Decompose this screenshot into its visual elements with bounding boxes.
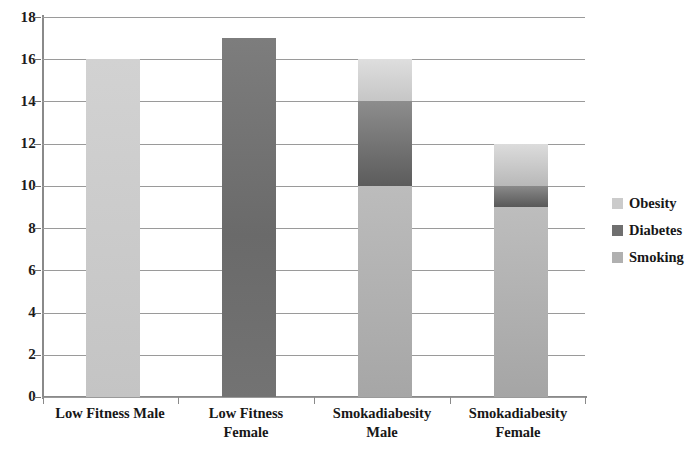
legend-label: Obesity bbox=[629, 196, 677, 211]
y-tick-label: 10 bbox=[6, 178, 36, 193]
x-tick-label-line: Smokadiabesity bbox=[450, 404, 586, 423]
bar-low-fitness-female[interactable] bbox=[222, 38, 276, 397]
x-axis-separator bbox=[314, 397, 315, 404]
y-tick-label: 18 bbox=[6, 10, 36, 25]
y-tick-mark bbox=[34, 144, 41, 145]
x-tick-label-line: Female bbox=[178, 423, 314, 442]
y-tick-mark bbox=[34, 270, 41, 271]
y-tick-mark bbox=[34, 17, 41, 18]
y-tick-label: 16 bbox=[6, 52, 36, 67]
legend-label: Diabetes bbox=[629, 223, 682, 238]
plot-area bbox=[42, 17, 585, 397]
bar-segment-diabetes[interactable] bbox=[358, 101, 412, 186]
y-tick-label: 6 bbox=[6, 263, 36, 278]
y-tick-label: 14 bbox=[6, 94, 36, 109]
y-tick-mark bbox=[34, 313, 41, 314]
bar-segment-obesity[interactable] bbox=[358, 59, 412, 101]
legend-swatch-icon bbox=[612, 252, 623, 263]
x-tick-label-smokadiabesity-male: Smokadiabesity Male bbox=[314, 404, 450, 442]
x-tick-label-line: Low Fitness Male bbox=[42, 404, 178, 423]
x-tick-label-line: Smokadiabesity bbox=[314, 404, 450, 423]
bar-segment-obesity[interactable] bbox=[86, 59, 140, 397]
bar-segment-diabetes[interactable] bbox=[494, 186, 548, 207]
chart-container: 18 16 14 12 10 8 6 4 2 0 bbox=[0, 0, 691, 459]
bar-smokadiabesity-female[interactable] bbox=[494, 144, 548, 397]
bar-segment-obesity[interactable] bbox=[494, 144, 548, 186]
bar-segment-smoking[interactable] bbox=[494, 207, 548, 397]
legend-item-diabetes[interactable]: Diabetes bbox=[612, 217, 691, 244]
y-tick-label: 4 bbox=[6, 305, 36, 320]
x-tick-label-line: Male bbox=[314, 423, 450, 442]
x-tick-label-smokadiabesity-female: Smokadiabesity Female bbox=[450, 404, 586, 442]
y-tick-label: 8 bbox=[6, 221, 36, 236]
x-tick-label-low-fitness-female: Low Fitness Female bbox=[178, 404, 314, 442]
y-tick-label: 0 bbox=[6, 389, 36, 404]
y-tick-label: 12 bbox=[6, 136, 36, 151]
legend-swatch-icon bbox=[612, 225, 623, 236]
y-tick-mark bbox=[34, 397, 41, 398]
bar-segment-diabetes[interactable] bbox=[222, 38, 276, 397]
x-tick-label-low-fitness-male: Low Fitness Male bbox=[42, 404, 178, 423]
y-axis-tick-labels: 18 16 14 12 10 8 6 4 2 0 bbox=[0, 17, 36, 397]
legend: Obesity Diabetes Smoking bbox=[612, 190, 691, 271]
y-tick-mark bbox=[34, 228, 41, 229]
y-tick-mark bbox=[34, 101, 41, 102]
x-axis-separator bbox=[585, 397, 586, 404]
x-axis-separator bbox=[178, 397, 179, 404]
bar-smokadiabesity-male[interactable] bbox=[358, 59, 412, 397]
bar-segment-smoking[interactable] bbox=[358, 186, 412, 397]
legend-label: Smoking bbox=[629, 250, 684, 265]
x-axis-separator bbox=[450, 397, 451, 404]
y-tick-label: 2 bbox=[6, 347, 36, 362]
legend-item-obesity[interactable]: Obesity bbox=[612, 190, 691, 217]
legend-swatch-icon bbox=[612, 198, 623, 209]
x-tick-label-line: Low Fitness bbox=[178, 404, 314, 423]
y-tick-mark bbox=[34, 59, 41, 60]
legend-item-smoking[interactable]: Smoking bbox=[612, 244, 691, 271]
x-axis-tick-labels: Low Fitness Male Low Fitness Female Smok… bbox=[42, 404, 587, 459]
x-axis-separator bbox=[43, 397, 44, 404]
y-tick-mark bbox=[34, 355, 41, 356]
gridline-18 bbox=[42, 17, 585, 18]
bar-low-fitness-male[interactable] bbox=[86, 59, 140, 397]
y-tick-mark bbox=[34, 186, 41, 187]
x-tick-label-line: Female bbox=[450, 423, 586, 442]
